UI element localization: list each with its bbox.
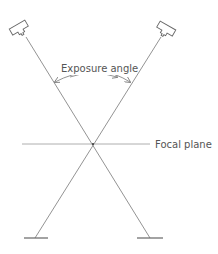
right-x-ray-tube-icon <box>154 21 176 40</box>
exposure-angle-label: Exposure angle <box>61 63 138 74</box>
focal-point <box>92 143 94 145</box>
left-x-ray-tube-icon <box>9 20 31 39</box>
focal-plane-label: Focal plane <box>155 139 212 150</box>
tomography-diagram: Exposure angle Focal plane <box>0 0 218 254</box>
